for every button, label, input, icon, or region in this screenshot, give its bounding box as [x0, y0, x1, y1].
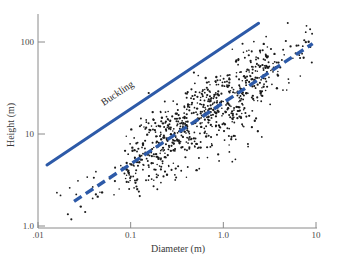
scatter-point	[204, 107, 206, 109]
scatter-point	[155, 131, 157, 133]
scatter-point	[205, 108, 207, 110]
scatter-point	[228, 128, 230, 130]
scatter-point	[188, 146, 190, 148]
scatter-point	[217, 90, 219, 92]
scatter-point	[236, 117, 238, 119]
scatter-point	[255, 66, 257, 68]
scatter-point	[155, 142, 157, 144]
scatter-point	[152, 142, 154, 144]
scatter-point	[228, 82, 230, 84]
scatter-point	[193, 112, 195, 114]
scatter-point	[266, 86, 268, 88]
scatter-point	[95, 171, 97, 173]
scatter-point	[230, 136, 232, 138]
scatter-point	[311, 33, 313, 35]
scatter-point	[220, 93, 222, 95]
scatter-point	[235, 106, 237, 108]
scatter-point-outlier	[282, 89, 284, 91]
scatter-point	[233, 135, 235, 137]
scatter-point	[187, 166, 189, 168]
scatter-point	[283, 54, 285, 56]
scatter-point	[176, 125, 178, 127]
scatter-point	[182, 124, 184, 126]
scatter-point	[206, 146, 208, 148]
scatter-point	[124, 150, 126, 152]
scatter-point	[205, 77, 207, 79]
scatter-point	[228, 135, 230, 137]
scatter-point	[160, 182, 162, 184]
scatter-point	[160, 168, 162, 170]
scatter-point	[221, 107, 223, 109]
scatter-point	[204, 131, 206, 133]
scatter-point	[247, 143, 249, 145]
scatter-point	[277, 61, 279, 63]
scatter-point	[261, 95, 263, 97]
scatter-point	[156, 135, 158, 137]
scatter-point	[171, 169, 173, 171]
scatter-point	[191, 138, 193, 140]
scatter-point	[233, 116, 235, 118]
scatter-point	[265, 53, 267, 55]
scatter-point	[204, 100, 206, 102]
scatter-point	[186, 113, 188, 115]
scatter-point	[259, 50, 261, 52]
scatter-point	[127, 170, 129, 172]
scatter-point	[169, 128, 171, 130]
scatter-point	[142, 169, 144, 171]
scatter-point	[162, 147, 164, 149]
scatter-point	[156, 164, 158, 166]
scatter-point	[259, 82, 261, 84]
scatter-point	[226, 85, 228, 87]
scatter-point	[223, 78, 225, 80]
scatter-point	[233, 122, 235, 124]
scatter-point	[200, 126, 202, 128]
scatter-point	[202, 89, 204, 91]
scatter-point	[282, 49, 284, 51]
scatter-point	[194, 107, 196, 109]
scatter-point	[206, 81, 208, 83]
scatter-point	[130, 128, 132, 130]
scatter-point	[263, 43, 265, 45]
scatter-point	[246, 70, 248, 72]
scatter-point	[200, 141, 202, 143]
scatter-point	[235, 138, 237, 140]
scatter-point	[309, 28, 311, 30]
scatter-point	[129, 163, 131, 165]
scatter-point	[191, 112, 193, 114]
scatter-point	[209, 146, 211, 148]
scatter-point	[248, 81, 250, 83]
scatter-point	[80, 205, 82, 207]
scatter-point	[199, 91, 201, 93]
scatter-point	[255, 70, 257, 72]
scatter-point	[173, 162, 175, 164]
scatter-point	[251, 50, 253, 52]
scatter-point	[274, 61, 276, 63]
scatter-point	[140, 118, 142, 120]
scatter-point	[216, 101, 218, 103]
scatter-point	[265, 36, 267, 38]
scatter-point-outlier	[69, 187, 71, 189]
scatter-point	[131, 146, 133, 148]
scatter-point	[193, 98, 195, 100]
scatter-point	[147, 160, 149, 162]
scatter-point	[245, 80, 247, 82]
scatter-point	[163, 135, 165, 137]
scatter-point	[199, 146, 201, 148]
scatter-point	[253, 100, 255, 102]
scatter-point	[97, 195, 99, 197]
scatter-point	[148, 92, 150, 94]
scatter-point	[196, 114, 198, 116]
scatter-point	[186, 149, 188, 151]
scatter-point	[93, 177, 95, 179]
scatter-point	[232, 48, 234, 50]
scatter-point	[214, 102, 216, 104]
scatter-point	[135, 169, 137, 171]
scatter-point	[206, 96, 208, 98]
scatter-point	[160, 133, 162, 135]
scatter-point	[178, 117, 180, 119]
scatter-point	[126, 162, 128, 164]
scatter-point	[233, 109, 235, 111]
scatter-point	[194, 145, 196, 147]
scatter-point	[259, 66, 261, 68]
scatter-point	[191, 104, 193, 106]
